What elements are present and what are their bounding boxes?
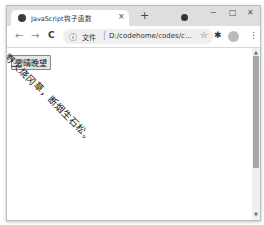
tab-active[interactable]: JavaScript钩子函数 × (11, 10, 129, 26)
url-text[interactable]: D:/codehome/codes/c... (109, 32, 192, 40)
browser-window: JavaScript钩子函数 × + − □ ✕ ← → C ⓘ 文件 | D:… (6, 5, 261, 221)
scrollbar-thumb[interactable] (253, 56, 259, 168)
browser-toolbar: ← → C ⓘ 文件 | D:/codehome/codes/c... ☆ ✱ … (7, 26, 260, 48)
info-icon[interactable]: ⓘ (69, 31, 77, 42)
back-button[interactable]: ← (15, 30, 23, 41)
tab-close-icon[interactable]: × (118, 12, 125, 21)
extensions-icon[interactable]: ✱ (214, 30, 222, 40)
file-label: 文件 (82, 32, 96, 42)
close-window-button[interactable]: ✕ (247, 8, 254, 17)
minimize-button[interactable]: − (210, 8, 217, 17)
menu-icon[interactable]: ⋮ (249, 30, 258, 40)
profile-dot-icon[interactable] (181, 14, 188, 21)
maximize-button[interactable]: □ (229, 8, 237, 17)
profile-avatar-icon[interactable] (228, 31, 239, 42)
bookmark-star-icon[interactable]: ☆ (200, 30, 208, 40)
new-tab-button[interactable]: + (140, 9, 149, 22)
page-content: 雪晴晚望 (7, 48, 252, 220)
tab-title: JavaScript钩子函数 (31, 13, 92, 23)
globe-icon (18, 14, 26, 22)
tab-bar: JavaScript钩子函数 × + − □ ✕ (7, 6, 260, 26)
forward-button[interactable]: → (31, 30, 39, 41)
vertical-scrollbar[interactable]: ▲ ▼ (252, 48, 260, 220)
separator: | (103, 31, 106, 40)
reload-button[interactable]: C (48, 30, 55, 40)
address-bar[interactable]: ⓘ 文件 | D:/codehome/codes/c... ☆ (63, 29, 213, 44)
scroll-up-arrow-icon[interactable]: ▲ (254, 49, 258, 55)
scroll-down-arrow-icon[interactable]: ▼ (254, 211, 258, 217)
